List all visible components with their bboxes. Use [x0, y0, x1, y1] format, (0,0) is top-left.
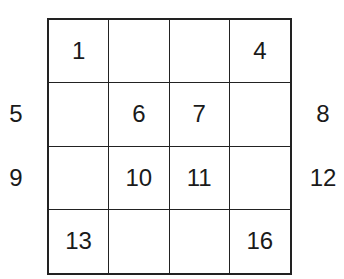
grid-cell-r4c2	[109, 210, 169, 273]
grid-cell-r1c4: 4	[230, 20, 290, 83]
left-label-row2: 5	[0, 100, 36, 128]
grid-cell-r1c2	[109, 20, 169, 83]
left-label-row3: 9	[0, 164, 36, 192]
grid-cell-r3c2: 10	[109, 147, 169, 210]
grid-cell-r3c1	[49, 147, 109, 210]
grid-cell-r2c2: 6	[109, 83, 169, 146]
grid-cell-r4c4: 16	[230, 210, 290, 273]
right-label-row2: 8	[303, 100, 343, 128]
grid-cell-r4c1: 13	[49, 210, 109, 273]
grid-cell-r3c4	[230, 147, 290, 210]
grid-cell-r1c3	[170, 20, 230, 83]
right-label-row3: 12	[303, 164, 343, 192]
grid-cell-r2c4	[230, 83, 290, 146]
grid-cell-r1c1: 1	[49, 20, 109, 83]
grid-cell-r3c3: 11	[170, 147, 230, 210]
number-grid: 1 4 6 7 10 11 13 16	[47, 18, 292, 275]
grid-cell-r2c3: 7	[170, 83, 230, 146]
grid-cell-r2c1	[49, 83, 109, 146]
grid-cell-r4c3	[170, 210, 230, 273]
